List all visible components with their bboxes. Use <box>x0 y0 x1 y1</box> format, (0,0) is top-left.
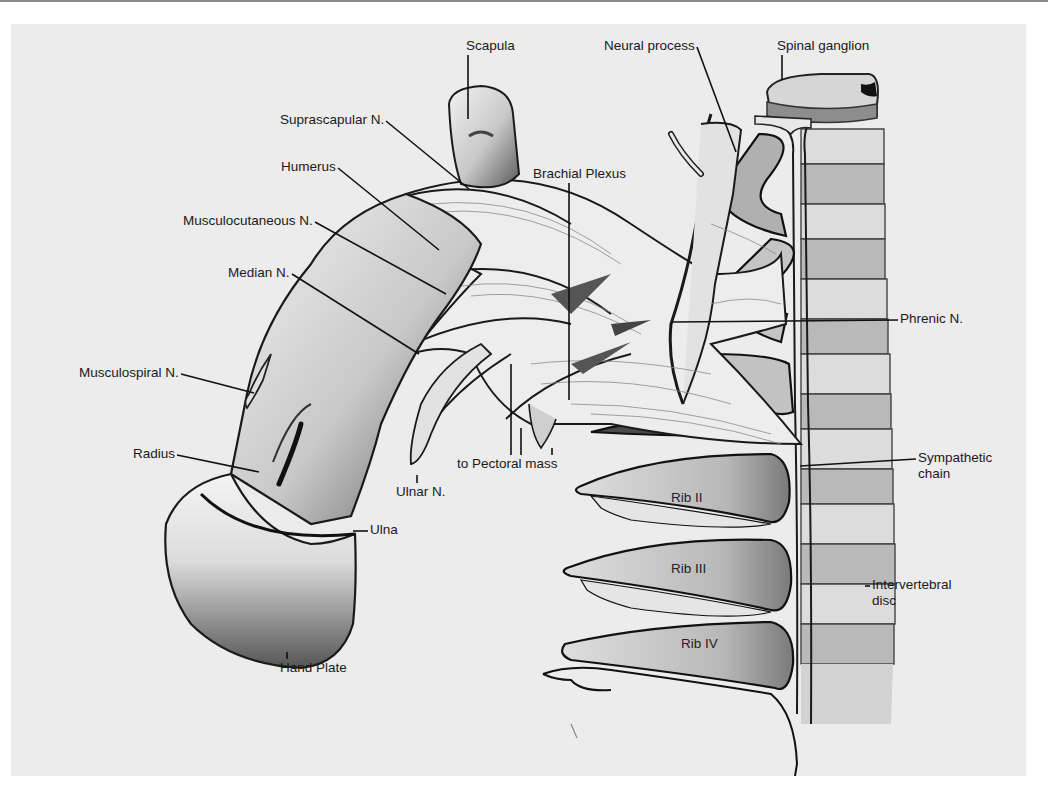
label-musculospiral-n: Musculospiral N. <box>79 365 179 381</box>
illustration-plate: ScapulaNeural processSpinal ganglionSupr… <box>11 24 1026 776</box>
sympathetic-chain-cord <box>781 124 797 714</box>
label-to-pectoral-mass: to Pectoral mass <box>457 456 558 472</box>
label-spinal-ganglion: Spinal ganglion <box>777 38 869 54</box>
label-intervertebral-disc: Intervertebraldisc <box>872 577 952 609</box>
label-scapula: Scapula <box>466 38 515 54</box>
spinal-ganglion-shape <box>767 74 878 123</box>
label-phrenic-n: Phrenic N. <box>900 311 963 327</box>
anatomy-illustration <box>11 24 1026 776</box>
ulnar-nerve-shape <box>411 344 491 464</box>
label-hand-plate: Hand Plate <box>280 660 347 676</box>
label-ulna: Ulna <box>370 522 398 538</box>
label-humerus: Humerus <box>281 159 336 175</box>
vertebral-column <box>801 129 895 724</box>
label-median-n: Median N. <box>228 265 290 281</box>
label-rib-iv: Rib IV <box>681 636 718 651</box>
top-rule <box>0 0 1048 2</box>
label-ulnar-n: Ulnar N. <box>396 484 446 500</box>
label-musculocutaneous-n: Musculocutaneous N. <box>183 213 313 229</box>
label-suprascapular-n: Suprascapular N. <box>280 112 384 128</box>
scapula-shape <box>449 86 519 187</box>
label-sympathetic-chain: Sympatheticchain <box>918 450 992 482</box>
label-rib-ii: Rib II <box>671 490 703 505</box>
label-radius: Radius <box>133 446 175 462</box>
label-neural-process: Neural process <box>604 38 695 54</box>
label-brachial-plexus: Brachial Plexus <box>533 166 626 182</box>
label-rib-iii: Rib III <box>671 561 706 576</box>
